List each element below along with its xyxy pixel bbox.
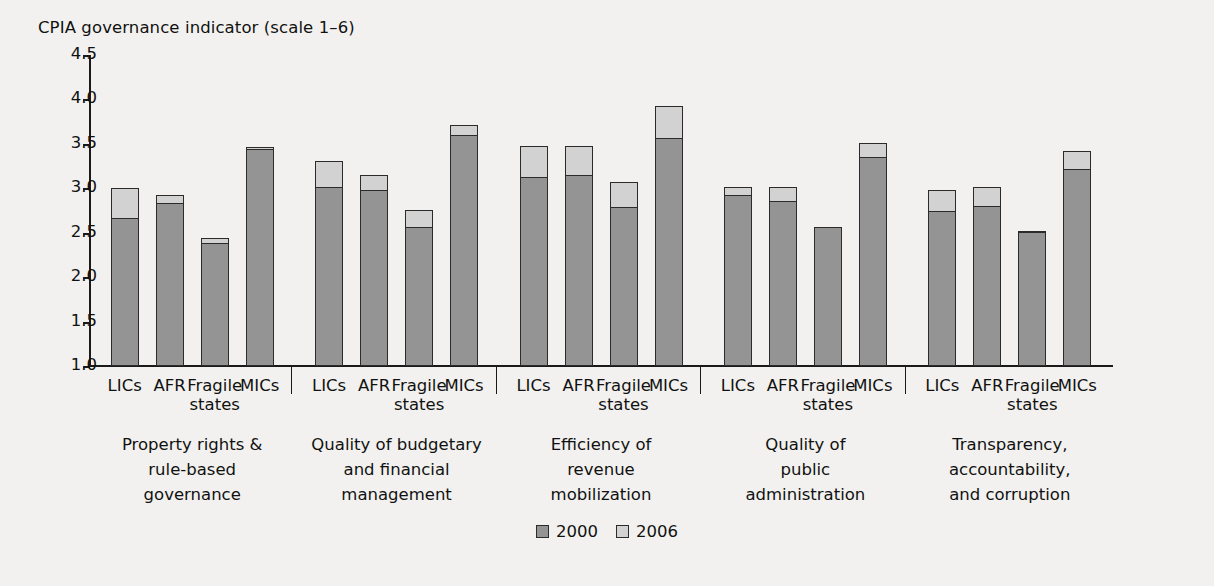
y-tick-label: 3.5 <box>37 133 97 152</box>
group-label-line: revenue <box>499 457 703 482</box>
bar-fragile-states <box>610 182 638 366</box>
bar-lics <box>724 187 752 366</box>
category-label-line: states <box>374 395 464 414</box>
chart-legend: 2000 2006 <box>0 522 1214 541</box>
legend-swatch-2000-icon <box>536 525 549 538</box>
bar-lics <box>928 190 956 366</box>
category-label-line: MICs <box>1032 376 1122 395</box>
bar-mics <box>246 147 274 366</box>
bar-afr <box>156 195 184 366</box>
legend-item-2006: 2006 <box>616 522 678 541</box>
group-label-line: mobilization <box>499 482 703 507</box>
bar-fragile-states <box>405 210 433 366</box>
group-label-line: and corruption <box>908 482 1112 507</box>
group-label: Quality ofpublicadministration <box>703 432 907 507</box>
bar-segment-2000 <box>859 157 887 366</box>
legend-label-2000: 2000 <box>556 522 598 541</box>
bar-segment-2000 <box>655 138 683 366</box>
group-label-line: Property rights & <box>90 432 294 457</box>
plot-area <box>90 55 1112 366</box>
group-label-line: Transparency, <box>908 432 1112 457</box>
y-tick-label: 4.5 <box>37 44 97 63</box>
group-label: Quality of budgetaryand financialmanagem… <box>294 432 498 507</box>
y-tick-label: 1.0 <box>37 355 97 374</box>
bar-mics <box>450 125 478 366</box>
y-tick-label: 2.0 <box>37 266 97 285</box>
group-label: Property rights &rule-basedgovernance <box>90 432 294 507</box>
bar-segment-2000 <box>565 175 593 366</box>
category-label-line: states <box>170 395 260 414</box>
legend-label-2006: 2006 <box>636 522 678 541</box>
bar-fragile-states <box>201 238 229 366</box>
bar-segment-2000 <box>1018 232 1046 366</box>
group-label-line: governance <box>90 482 294 507</box>
bar-segment-2000 <box>610 207 638 366</box>
bar-lics <box>520 146 548 366</box>
bar-fragile-states <box>814 227 842 367</box>
group-label-line: rule-based <box>90 457 294 482</box>
bar-mics <box>655 106 683 366</box>
chart-title: CPIA governance indicator (scale 1–6) <box>38 18 355 37</box>
bar-segment-2000 <box>1063 169 1091 366</box>
bar-segment-2000 <box>814 227 842 366</box>
y-tick-label: 2.5 <box>37 222 97 241</box>
group-label-line: management <box>294 482 498 507</box>
cpia-governance-chart: CPIA governance indicator (scale 1–6) 4.… <box>0 0 1214 586</box>
group-label: Transparency,accountability,and corrupti… <box>908 432 1112 507</box>
group-label-line: Quality of budgetary <box>294 432 498 457</box>
bar-afr <box>565 146 593 366</box>
category-label: MICs <box>1032 376 1122 395</box>
group-label-line: administration <box>703 482 907 507</box>
group-label-line: Quality of <box>703 432 907 457</box>
category-label-line: states <box>783 395 873 414</box>
bar-segment-2000 <box>111 218 139 366</box>
group-label-line: Efficiency of <box>499 432 703 457</box>
bar-segment-2000 <box>769 201 797 366</box>
bar-mics <box>1063 151 1091 366</box>
bar-segment-2000 <box>246 149 274 366</box>
bar-segment-2000 <box>450 135 478 366</box>
bar-afr <box>769 187 797 366</box>
bar-segment-2000 <box>405 227 433 366</box>
bar-afr <box>360 175 388 366</box>
bar-fragile-states <box>1018 231 1046 366</box>
bar-mics <box>859 143 887 366</box>
y-tick-label: 1.5 <box>37 311 97 330</box>
bar-segment-2000 <box>201 243 229 366</box>
legend-swatch-2006-icon <box>616 525 629 538</box>
bar-segment-2000 <box>156 203 184 366</box>
bar-segment-2000 <box>973 206 1001 366</box>
category-label-line: states <box>987 395 1077 414</box>
bar-afr <box>973 187 1001 366</box>
category-label-line: states <box>579 395 669 414</box>
bar-segment-2000 <box>315 187 343 366</box>
group-label-line: public <box>703 457 907 482</box>
bar-segment-2000 <box>520 177 548 366</box>
bar-segment-2000 <box>724 195 752 366</box>
group-label-line: accountability, <box>908 457 1112 482</box>
group-label: Efficiency ofrevenuemobilization <box>499 432 703 507</box>
bar-lics <box>315 161 343 366</box>
legend-item-2000: 2000 <box>536 522 598 541</box>
group-label-line: and financial <box>294 457 498 482</box>
y-tick-label: 3.0 <box>37 177 97 196</box>
bar-lics <box>111 188 139 366</box>
bar-segment-2000 <box>360 190 388 366</box>
bar-segment-2000 <box>928 211 956 366</box>
y-tick-label: 4.0 <box>37 88 97 107</box>
